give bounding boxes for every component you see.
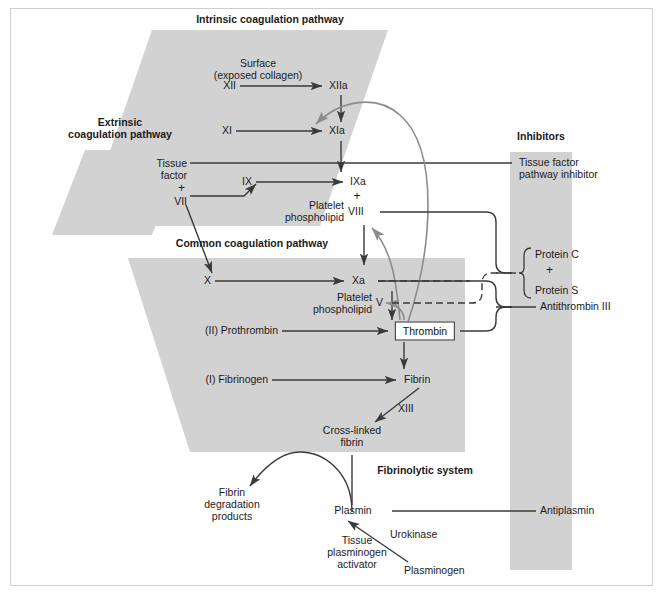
inhibitor-protein-c: Protein C [535, 249, 579, 261]
label-platelet-phospholipid-upper-line2: phospholipid [285, 212, 344, 224]
node-factor-xiia: XIIa [329, 80, 348, 92]
node-plasmin: Plasmin [334, 505, 371, 517]
title-extrinsic-pathway-line2: coagulation pathway [68, 129, 172, 141]
inhibitor-protein-plus: + [546, 265, 553, 277]
node-factor-vii: VII [174, 196, 187, 208]
node-factor-viii: VIII [348, 206, 364, 218]
node-fibrin: Fibrin [404, 374, 430, 386]
label-surface-line1: Surface [240, 58, 276, 70]
node-factor-x: X [204, 275, 211, 287]
pathway-bands [52, 30, 572, 570]
node-factor-ixa: IXa [350, 176, 366, 188]
node-tissue-factor-line2: factor [161, 170, 187, 182]
node-crosslinked-fibrin-line1: Cross-linked [323, 425, 381, 437]
inhibitor-tfpi-line2: pathway inhibitor [519, 169, 598, 181]
node-fdp-line1: Fibrin [219, 487, 245, 499]
label-platelet-phospholipid-lower-line1: Platelet [337, 292, 372, 304]
node-factor-v: V [376, 297, 383, 309]
label-tpa-line1: Tissue [342, 535, 373, 547]
node-fdp-line2: degradation [204, 499, 259, 511]
coagulation-cascade-figure: Intrinsic coagulation pathway Extrinsic … [0, 0, 663, 594]
label-tpa-line2: plasminogen [327, 547, 387, 559]
node-tissue-factor-line1: Tissue [156, 158, 187, 170]
node-crosslinked-fibrin-line2: fibrin [341, 437, 364, 449]
title-inhibitors: Inhibitors [517, 131, 565, 143]
label-tpa-line3: activator [337, 559, 377, 571]
label-platelet-phospholipid-lower-line2: phospholipid [313, 304, 372, 316]
common-band [128, 258, 465, 452]
arrow-crosslinked-to-fdp [250, 452, 352, 512]
node-factor-ix: IX [242, 176, 252, 188]
inhibitor-protein-s: Protein S [535, 285, 578, 297]
line-thrombin-to-antithrombin [460, 307, 512, 331]
node-factor-xiii: XIII [398, 403, 414, 415]
node-prothrombin: (II) Prothrombin [205, 325, 278, 337]
label-platelet-phospholipid-upper-line1: Platelet [309, 200, 344, 212]
node-factor-xia: XIa [329, 125, 345, 137]
label-urokinase: Urokinase [390, 529, 437, 541]
node-thrombin: Thrombin [395, 322, 455, 341]
node-factor-xa: Xa [352, 275, 365, 287]
inhibitor-tfpi-line1: Tissue factor [519, 157, 579, 169]
plus-extrinsic: + [178, 183, 185, 195]
inhibitor-antithrombin-iii: Antithrombin III [540, 301, 611, 313]
node-plasminogen: Plasminogen [404, 565, 465, 577]
node-factor-xi: XI [222, 125, 232, 137]
label-surface-line2: (exposed collagen) [214, 70, 303, 82]
inhibitor-antiplasmin: Antiplasmin [540, 505, 594, 517]
title-common-pathway: Common coagulation pathway [176, 238, 328, 250]
node-factor-xii: XII [223, 80, 236, 92]
title-fibrinolytic-system: Fibrinolytic system [377, 465, 473, 477]
title-intrinsic-pathway: Intrinsic coagulation pathway [196, 14, 344, 26]
title-extrinsic-pathway-line1: Extrinsic [98, 117, 142, 129]
plus-ixa-viii: + [353, 191, 360, 203]
node-fibrinogen: (I) Fibrinogen [206, 374, 268, 386]
node-fdp-line3: products [212, 511, 252, 523]
